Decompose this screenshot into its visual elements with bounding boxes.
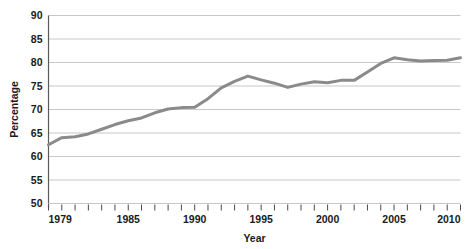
x-tick-label-1990: 1990 <box>183 213 207 225</box>
y-tick-label-85: 85 <box>31 33 43 45</box>
y-tick-label-50: 50 <box>31 197 43 209</box>
gridlines <box>49 16 461 181</box>
y-tick-label-65: 65 <box>31 127 43 139</box>
x-tick-label-1985: 1985 <box>117 213 141 225</box>
y-tick-label-55: 55 <box>31 174 43 186</box>
y-tick-label-75: 75 <box>31 80 43 92</box>
y-axis-title: Percentage <box>8 81 20 138</box>
y-tick-labels: 505560657075808590 <box>31 9 43 209</box>
x-axis-title: Year <box>243 232 265 244</box>
x-tick-marks <box>49 205 461 211</box>
x-tick-label-1979: 1979 <box>49 213 73 225</box>
chart-canvas: 5055606570758085901979198519901995200020… <box>0 0 474 249</box>
x-tick-label-1995: 1995 <box>249 213 273 225</box>
y-tick-label-80: 80 <box>31 56 43 68</box>
x-tick-label-2000: 2000 <box>316 213 340 225</box>
y-tick-label-60: 60 <box>31 150 43 162</box>
data-line-percentage <box>49 58 461 145</box>
line-chart: 5055606570758085901979198519901995200020… <box>0 0 474 249</box>
x-tick-label-2005: 2005 <box>382 213 406 225</box>
y-tick-label-90: 90 <box>31 9 43 21</box>
y-tick-label-70: 70 <box>31 103 43 115</box>
x-tick-label-2010: 2010 <box>437 213 461 225</box>
x-tick-labels: 1979198519901995200020052010 <box>49 213 461 225</box>
